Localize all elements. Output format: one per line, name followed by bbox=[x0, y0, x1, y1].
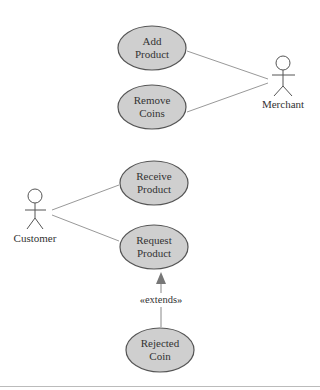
assoc-merchant-remove-coins bbox=[187, 83, 268, 112]
assoc-customer-request-product bbox=[52, 215, 119, 241]
actor-head-icon bbox=[276, 56, 290, 70]
use-case-label: Request bbox=[136, 234, 171, 246]
use-case-request-product[interactable]: Request Product bbox=[120, 225, 188, 269]
actor-customer[interactable] bbox=[25, 189, 46, 229]
use-case-remove-coins[interactable]: Remove Coins bbox=[118, 85, 186, 129]
use-case-diagram: «extends» Add Product Remove Coins Recei… bbox=[0, 0, 320, 390]
assoc-customer-receive-product bbox=[52, 185, 119, 210]
extends-label: «extends» bbox=[140, 294, 183, 305]
use-case-label: Coins bbox=[139, 107, 165, 119]
assoc-merchant-add-product bbox=[187, 51, 268, 79]
use-case-label: Coin bbox=[149, 350, 171, 362]
use-case-add-product[interactable]: Add Product bbox=[118, 26, 186, 70]
use-case-label: Product bbox=[137, 247, 171, 259]
extends-arrowhead-icon bbox=[156, 272, 166, 284]
actor-head-icon bbox=[28, 189, 42, 203]
use-case-label: Add bbox=[143, 35, 162, 47]
use-case-label: Product bbox=[137, 183, 171, 195]
use-case-label: Rejected bbox=[141, 337, 180, 349]
use-case-label: Remove bbox=[134, 94, 171, 106]
use-case-receive-product[interactable]: Receive Product bbox=[120, 161, 188, 205]
use-case-rejected-coin[interactable]: Rejected Coin bbox=[126, 328, 194, 372]
actor-label-merchant: Merchant bbox=[262, 98, 304, 110]
use-case-label: Product bbox=[135, 48, 169, 60]
actor-label-customer: Customer bbox=[14, 232, 57, 244]
actor-merchant[interactable] bbox=[272, 56, 295, 96]
use-case-label: Receive bbox=[136, 170, 172, 182]
